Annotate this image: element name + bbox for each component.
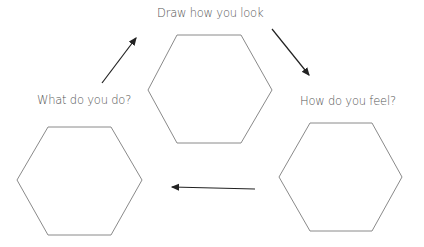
cycle-diagram	[0, 0, 424, 247]
arrow-feel-to-do	[172, 187, 255, 189]
hexagon-look[interactable]	[148, 35, 272, 143]
hexagon-do[interactable]	[17, 127, 142, 235]
hexagon-feel[interactable]	[279, 123, 402, 231]
arrow-look-to-feel	[272, 29, 309, 75]
arrow-do-to-look	[102, 38, 136, 83]
